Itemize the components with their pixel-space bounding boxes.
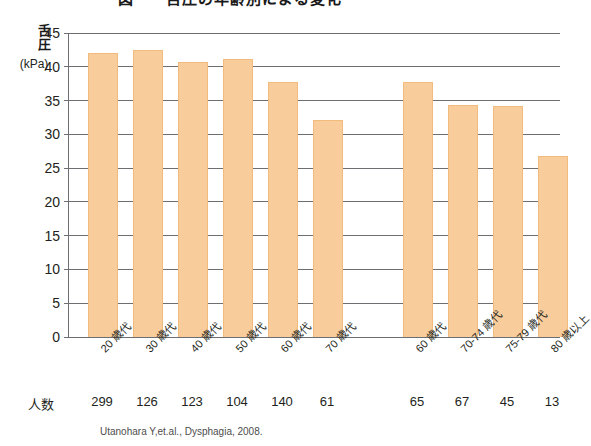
bar [313,120,343,337]
y-axis-tick-label: 30 [44,126,60,142]
source-citation: Utanohara Y,et.al., Dysphagia, 2008. [100,426,263,437]
bar [268,82,298,337]
plot-inner: 051015202530354045 [69,33,560,337]
y-axis-tick-label: 25 [44,160,60,176]
y-axis-tick-label: 35 [44,93,60,109]
count-value: 13 [545,394,559,409]
y-axis-tick [64,100,69,101]
count-value: 65 [410,394,424,409]
y-axis-tick-label: 45 [44,25,60,41]
counts-row-label: 人数 [28,394,54,413]
bar [223,59,253,337]
count-value: 299 [91,394,113,409]
count-value: 126 [136,394,158,409]
y-axis-tick [64,134,69,135]
y-axis-tick [64,33,69,34]
count-value: 140 [271,394,293,409]
bar [178,62,208,337]
y-axis-tick [64,168,69,169]
y-axis-tick [64,303,69,304]
y-axis-tick-label: 15 [44,228,60,244]
y-axis-tick-label: 20 [44,194,60,210]
bar [133,50,163,337]
plot-area: 051015202530354045 [68,33,560,338]
y-axis-tick [64,66,69,67]
y-axis-tick [64,269,69,270]
count-value: 45 [500,394,514,409]
count-value: 123 [181,394,203,409]
bar [448,105,478,337]
y-axis-tick [64,337,69,338]
count-value: 104 [226,394,248,409]
bar [493,106,523,337]
y-axis-tick-label: 40 [44,59,60,75]
y-axis-tick-label: 5 [52,295,60,311]
y-axis-tick-label: 0 [52,329,60,345]
bar [403,82,433,337]
gridline [69,33,560,34]
y-axis-tick [64,235,69,236]
chart-title: 図 舌圧の年齢別による変化 [118,0,342,8]
bar [88,53,118,337]
y-axis-tick [64,201,69,202]
y-axis-tick-label: 10 [44,261,60,277]
count-value: 67 [455,394,469,409]
count-value: 61 [320,394,334,409]
